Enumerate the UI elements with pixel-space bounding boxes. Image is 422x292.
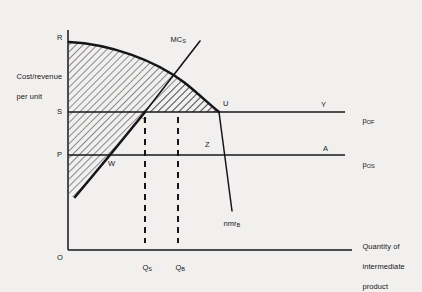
curve-label-nmr-b-base: nmr: [223, 219, 236, 228]
axis-label-o: O: [57, 253, 63, 263]
price-line-of-label: pOF: [358, 106, 375, 126]
point-label-w: W: [108, 159, 115, 169]
x-axis-title: Quantity of intermediate product: [358, 232, 405, 292]
curve-label-nmr-b-sub: B: [237, 222, 241, 228]
price-line-of-sub: OF: [367, 119, 375, 125]
y-axis-title-line2: per unit: [16, 92, 42, 101]
price-line-os-point-label: A: [323, 144, 328, 154]
tick-label-q-s-sub: S: [148, 266, 152, 272]
price-line-os-sub: OS: [367, 163, 375, 169]
price-line-of-point-label: Y: [321, 100, 326, 110]
tick-label-q-b-sub: B: [181, 266, 185, 272]
point-label-t: T: [142, 116, 147, 126]
y-axis-title: Cost/revenue per unit: [12, 62, 62, 102]
curve-label-nmr-b: nmrB: [219, 209, 240, 229]
price-line-os-label: pOS: [358, 150, 375, 170]
axis-label-p: P: [57, 150, 62, 160]
curve-label-mc-s-base: MC: [170, 35, 182, 44]
x-axis-title-line1: Quantity of: [362, 242, 399, 251]
curve-label-mc-s-sub: S: [182, 38, 186, 44]
point-label-z: Z: [205, 140, 210, 150]
axis-label-s: S: [57, 107, 62, 117]
axis-label-r: R: [57, 33, 63, 43]
price-line-os-base: p: [362, 160, 366, 169]
tick-label-q-s: QS: [138, 253, 152, 273]
tick-label-q-b: QB: [171, 253, 185, 273]
x-axis-title-line2: intermediate: [362, 262, 404, 271]
nmr-b-line-segment: [219, 112, 232, 211]
y-axis-title-line1: Cost/revenue: [16, 72, 62, 81]
price-line-of-base: p: [362, 116, 366, 125]
x-axis-title-line3: product: [362, 282, 388, 291]
curve-label-mc-s: MCS: [166, 25, 186, 45]
point-label-u: U: [223, 99, 229, 109]
